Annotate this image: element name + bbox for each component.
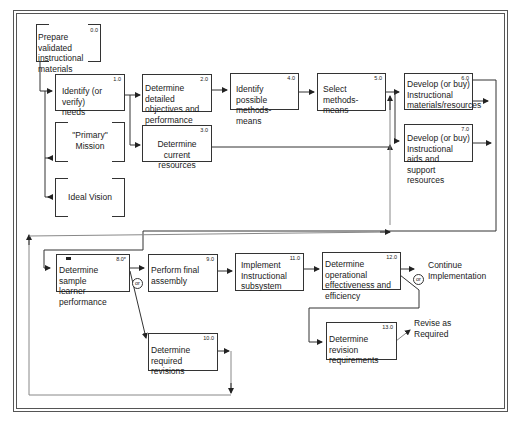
box-8-0-determine-learner-performance: 8.0* Determine sample learner performanc…	[56, 254, 130, 292]
box-number: 3.0	[200, 127, 208, 133]
box-number: 9.0	[206, 256, 214, 262]
box-text-line: Develop (or buy)	[407, 133, 470, 144]
box-text-line: Determine required	[151, 345, 215, 366]
box-text-line: Identify (or verify)	[62, 86, 122, 107]
box-4-0-identify-methods: 4.0 Identify possible methods-means	[230, 73, 299, 110]
marker-dot	[66, 257, 71, 260]
box-13-0-determine-revision-requirements: 13.0 Determine revision requirements	[326, 322, 397, 360]
box-0-0-prepare-validated-materials: 0.0 Prepare validated instructional mate…	[36, 24, 101, 62]
box-text-line: Instructional aids and	[407, 144, 470, 165]
box-text-line: effectiveness and	[325, 280, 398, 291]
box-text-line: materials	[38, 64, 101, 75]
box-text-line: Perform final	[151, 265, 215, 276]
box-text-line: Determine operational	[325, 259, 398, 280]
box-5-0-select-methods: 5.0 Select methods-means	[317, 73, 386, 111]
box-text-line: Determine current	[145, 139, 209, 160]
box-text-line: Determine revision	[329, 334, 394, 355]
label-revise-as-required: Revise as Required	[414, 318, 451, 339]
box-3-0-determine-resources: 3.0 Determine current resources	[142, 125, 212, 162]
box-text-line: "Primary"	[55, 130, 125, 141]
box-ideal-vision: Ideal Vision	[55, 178, 125, 217]
box-text-line: performance	[145, 115, 209, 126]
box-number: 10.0	[203, 335, 214, 341]
box-text-line: Determine detailed	[145, 83, 209, 104]
box-text-line: Select	[323, 84, 383, 95]
box-text-line: resources	[145, 160, 209, 171]
box-text-line: assembly	[151, 276, 215, 287]
label-continue-implementation: Continue Implementation	[428, 260, 486, 281]
box-number: 13.0	[382, 324, 393, 330]
or-connector-8: or	[132, 278, 143, 289]
box-12-0-operational-effectiveness: 12.0 Determine operational effectiveness…	[322, 252, 401, 290]
box-text-line: Instructional	[241, 271, 301, 282]
label-line: Implementation	[428, 271, 486, 282]
box-number: 7.0	[461, 126, 469, 132]
box-text-line: needs	[62, 107, 122, 118]
box-6-0-develop-materials: 6.0 Develop (or buy) Instructional mater…	[404, 73, 473, 110]
label-line: Required	[414, 329, 451, 340]
label-line: Continue	[428, 260, 486, 271]
box-text-line: Implement	[241, 260, 301, 271]
box-text-line: Determine sample	[59, 265, 127, 286]
box-text-line: revisions	[151, 366, 215, 377]
box-text-line: support resources	[407, 165, 470, 186]
box-number: 8.0*	[116, 256, 126, 262]
box-text-line: subsystem	[241, 281, 301, 292]
box-number: 1.0	[113, 76, 121, 82]
box-text-line: efficiency	[325, 291, 398, 302]
box-1-0-identify-needs: 1.0 Identify (or verify) needs	[55, 74, 125, 111]
box-text-line: objectives and	[145, 104, 209, 115]
box-number: 2.0	[200, 76, 208, 82]
box-7-0-develop-aids: 7.0 Develop (or buy) Instructional aids …	[404, 124, 473, 162]
box-text-line: Develop (or buy)	[407, 79, 470, 90]
box-text-line: methods-means	[236, 105, 296, 126]
box-primary-mission: "Primary" Mission	[55, 122, 125, 162]
box-text-line: materials/resources	[407, 100, 470, 111]
box-number: 4.0	[287, 75, 295, 81]
box-2-0-determine-objectives: 2.0 Determine detailed objectives and pe…	[142, 74, 212, 112]
box-text-line: Instructional	[407, 90, 470, 101]
box-text-line: instructional	[38, 53, 101, 64]
box-text-line: Mission	[55, 141, 125, 152]
box-text-line: requirements	[329, 355, 394, 366]
box-text-line: methods-means	[323, 95, 383, 116]
or-connector-12: or	[413, 274, 424, 285]
box-text-line: learner performance	[59, 286, 127, 307]
box-text-line: Prepare validated	[38, 32, 101, 53]
box-10-0-determine-revisions: 10.0 Determine required revisions	[148, 333, 218, 371]
box-number: 5.0	[374, 75, 382, 81]
box-text-line: Ideal Vision	[55, 192, 125, 203]
box-9-0-final-assembly: 9.0 Perform final assembly	[148, 254, 218, 292]
box-11-0-implement-subsystem: 11.0 Implement Instructional subsystem	[235, 253, 304, 291]
box-text-line: Identify possible	[236, 84, 296, 105]
label-line: Revise as	[414, 318, 451, 329]
